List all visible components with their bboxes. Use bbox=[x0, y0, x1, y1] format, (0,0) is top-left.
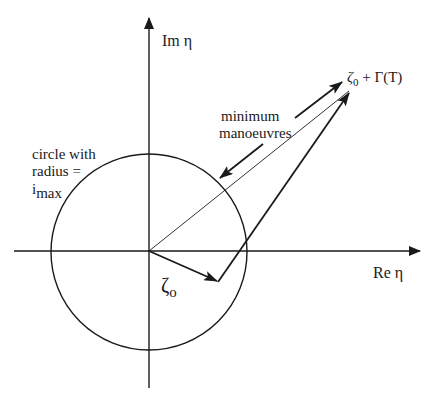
complex-plane-diagram bbox=[0, 0, 434, 399]
imaginary-axis-label: Im η bbox=[162, 33, 192, 49]
circle-label: circle with radius = imax bbox=[32, 146, 96, 198]
annotation-arrow-down bbox=[220, 144, 263, 178]
zeta0-vector bbox=[149, 251, 217, 281]
minimum-manoeuvres-label: minimum manoeuvres bbox=[219, 108, 291, 142]
endpoint-label: ζ0 + Γ(T) bbox=[347, 70, 402, 85]
zeta0-label: ζo bbox=[161, 275, 177, 295]
circle-label-line3: imax bbox=[32, 181, 96, 198]
circle-label-line1: circle with bbox=[32, 146, 96, 163]
real-axis-label: Re η bbox=[373, 265, 403, 281]
circle-label-line2: radius = bbox=[32, 163, 96, 180]
